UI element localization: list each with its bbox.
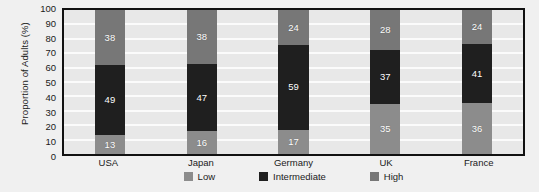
y-axis-tick-10: 10 xyxy=(18,136,56,147)
bar-value-label: 38 xyxy=(196,32,207,42)
bar-segment-japan-low[interactable]: 16 xyxy=(187,131,217,154)
chart-legend: LowIntermediateHigh xyxy=(62,170,525,183)
bar-segment-germany-intermediate[interactable]: 59 xyxy=(278,45,308,130)
plot-area: 384913384716245917283735244136 xyxy=(62,8,525,156)
y-axis-tick-80: 80 xyxy=(18,32,56,43)
bar-value-label: 38 xyxy=(105,33,116,43)
bar-value-label: 36 xyxy=(472,124,483,134)
bar-value-label: 28 xyxy=(380,25,391,35)
bar-segment-germany-low[interactable]: 17 xyxy=(278,130,308,154)
stacked-bar-uk[interactable]: 283735 xyxy=(370,10,400,154)
bar-segment-france-high[interactable]: 24 xyxy=(462,10,492,44)
bar-segment-japan-high[interactable]: 38 xyxy=(187,10,217,64)
y-axis-tick-60: 60 xyxy=(18,62,56,73)
legend-label: Low xyxy=(198,171,215,182)
legend-swatch-intermediate-icon xyxy=(259,172,268,181)
y-axis-tick-90: 90 xyxy=(18,17,56,28)
legend-item-high[interactable]: High xyxy=(370,171,404,182)
stacked-bar-germany[interactable]: 245917 xyxy=(278,10,308,154)
stacked-bar-japan[interactable]: 384716 xyxy=(187,10,217,154)
x-axis-label-japan: Japan xyxy=(155,157,248,171)
bar-value-label: 16 xyxy=(196,138,207,148)
y-axis-tick-0: 0 xyxy=(18,151,56,162)
bar-segment-france-low[interactable]: 36 xyxy=(462,103,492,154)
legend-swatch-low-icon xyxy=(184,172,193,181)
y-axis-tick-100: 100 xyxy=(18,3,56,14)
stacked-bar-france[interactable]: 244136 xyxy=(462,10,492,154)
y-axis-tick-30: 30 xyxy=(18,106,56,117)
bar-value-label: 41 xyxy=(472,69,483,79)
stacked-bar-chart: Proportion of Adults (%) 100908070605040… xyxy=(0,0,539,192)
legend-item-low[interactable]: Low xyxy=(184,171,215,182)
bar-segment-usa-intermediate[interactable]: 49 xyxy=(95,65,125,136)
bar-segment-uk-high[interactable]: 28 xyxy=(370,10,400,50)
bar-slot-uk: 283735 xyxy=(339,10,431,154)
y-axis-tick-40: 40 xyxy=(18,91,56,102)
legend-item-intermediate[interactable]: Intermediate xyxy=(259,171,326,182)
bar-segment-usa-low[interactable]: 13 xyxy=(95,135,125,154)
stacked-bar-usa[interactable]: 384913 xyxy=(95,10,125,154)
x-axis-label-usa: USA xyxy=(62,157,155,171)
bar-value-label: 17 xyxy=(288,137,299,147)
source-note xyxy=(300,186,530,192)
bar-value-label: 24 xyxy=(288,23,299,33)
bar-segment-usa-high[interactable]: 38 xyxy=(95,10,125,65)
y-axis-tick-70: 70 xyxy=(18,47,56,58)
bar-value-label: 24 xyxy=(472,22,483,32)
bar-slot-japan: 384716 xyxy=(156,10,248,154)
bar-value-label: 13 xyxy=(105,140,116,150)
legend-label: High xyxy=(384,171,404,182)
bar-value-label: 59 xyxy=(288,82,299,92)
bar-value-label: 47 xyxy=(196,93,207,103)
bar-segment-japan-intermediate[interactable]: 47 xyxy=(187,64,217,131)
y-axis-tick-50: 50 xyxy=(18,77,56,88)
bar-slot-france: 244136 xyxy=(431,10,523,154)
x-axis-label-germany: Germany xyxy=(247,157,340,171)
bar-segment-uk-intermediate[interactable]: 37 xyxy=(370,50,400,103)
x-axis-label-france: France xyxy=(432,157,525,171)
bar-segment-uk-low[interactable]: 35 xyxy=(370,104,400,154)
bar-segment-germany-high[interactable]: 24 xyxy=(278,10,308,45)
bar-group: 384913384716245917283735244136 xyxy=(64,10,523,154)
bar-value-label: 37 xyxy=(380,72,391,82)
bar-value-label: 49 xyxy=(105,95,116,105)
bar-segment-france-intermediate[interactable]: 41 xyxy=(462,44,492,102)
legend-swatch-high-icon xyxy=(370,172,379,181)
legend-label: Intermediate xyxy=(273,171,326,182)
x-axis-label-uk: UK xyxy=(340,157,433,171)
y-axis-tick-20: 20 xyxy=(18,121,56,132)
y-axis-tick-labels: 1009080706050403020100 xyxy=(18,8,56,156)
bar-slot-germany: 245917 xyxy=(248,10,340,154)
bar-slot-usa: 384913 xyxy=(64,10,156,154)
bar-value-label: 35 xyxy=(380,124,391,134)
x-axis-category-labels: USAJapanGermanyUKFrance xyxy=(62,157,525,171)
